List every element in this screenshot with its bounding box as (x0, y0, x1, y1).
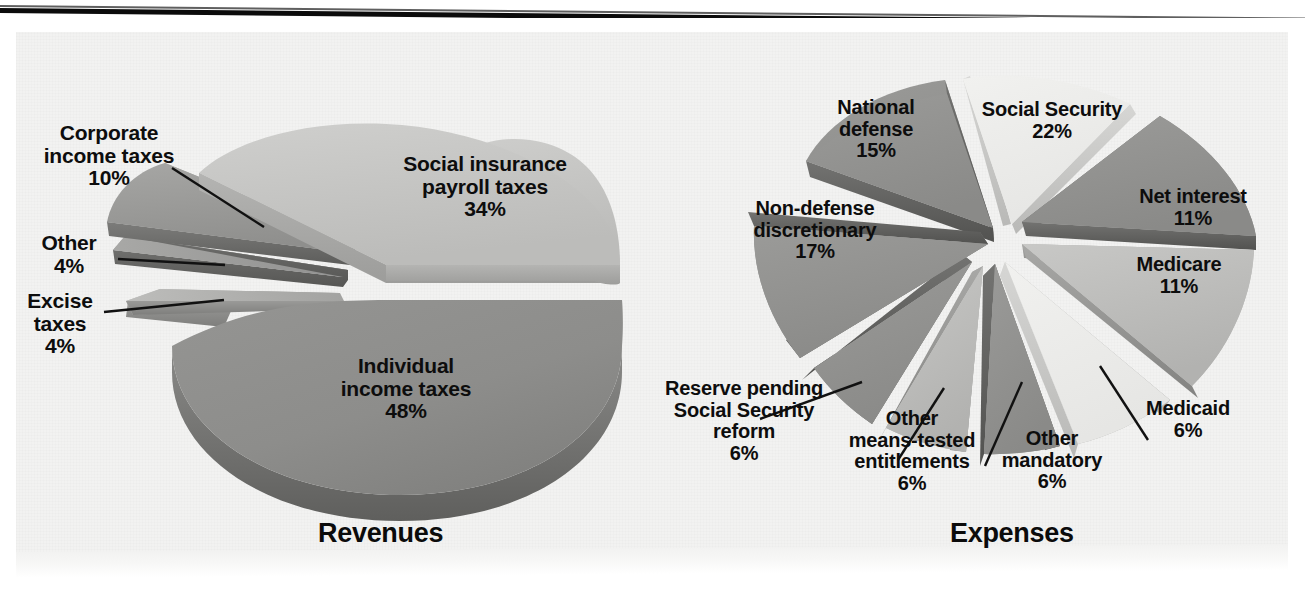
revenues-label-individual-income-taxes: Individual income taxes 48% (306, 355, 506, 423)
expenses-label-national-defense: National defense 15% (806, 97, 946, 162)
revenues-label-other: Other 4% (26, 232, 112, 277)
expenses-label-other-mandatory: Other mandatory 6% (992, 428, 1112, 493)
revenues-chart-title: Revenues (318, 518, 443, 549)
expenses-label-medicare: Medicare 11% (1114, 254, 1244, 297)
expenses-chart-title: Expenses (950, 518, 1074, 549)
expenses-label-non-defense-discretionary: Non-defense discretionary 17% (722, 198, 908, 263)
expenses-label-net-interest: Net interest 11% (1118, 186, 1268, 229)
expenses-label-other-means-tested-entitlements: Other means-tested entitlements 6% (838, 408, 986, 494)
expenses-label-social-security: Social Security 22% (962, 99, 1142, 142)
expenses-label-reserve-pending-ss-reform: Reserve pending Social Security reform 6… (654, 378, 834, 464)
figure-two-pie-charts: Corporate income taxes 10% Other 4% Exci… (0, 0, 1305, 610)
revenues-label-social-insurance-payroll-taxes: Social insurance payroll taxes 34% (372, 153, 598, 221)
revenues-label-corporate-income-taxes: Corporate income taxes 10% (18, 122, 200, 190)
revenues-label-excise-taxes: Excise taxes 4% (18, 290, 102, 358)
expenses-label-medicaid: Medicaid 6% (1128, 398, 1248, 441)
expenses-pie-chart (0, 0, 1305, 610)
